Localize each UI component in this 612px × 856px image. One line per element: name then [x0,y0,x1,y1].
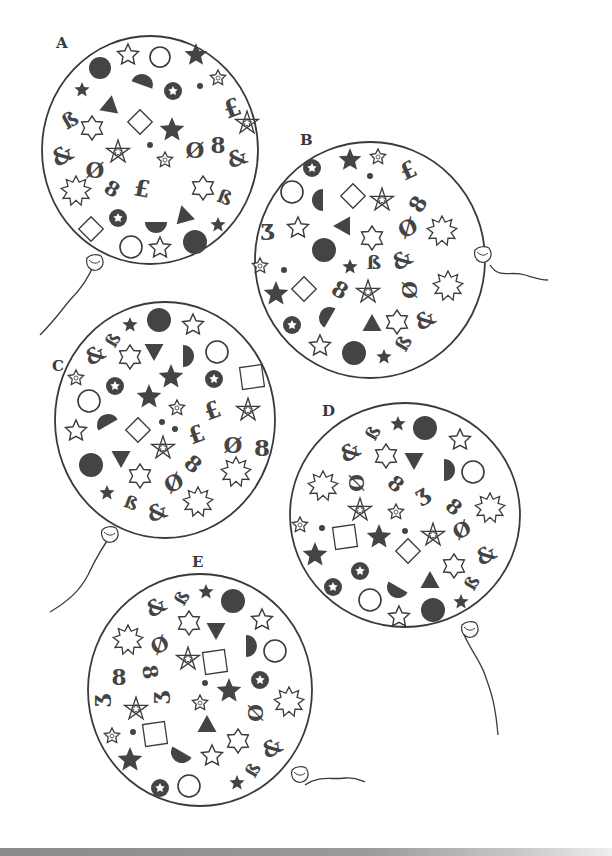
ezh-glyph-icon: Ʒ [150,690,175,704]
balloon-label-a: A [56,34,68,52]
figure-eight-icon: 8 [210,133,225,158]
dot-icon [319,525,325,531]
balloon-outline [88,574,312,806]
page-bottom-band [0,848,612,856]
ezh-glyph-icon: Ʒ [260,218,275,245]
balloon-string [50,534,112,612]
open-circle-icon [359,589,381,611]
open-square-icon [143,722,168,747]
balloon-label-c: C [52,357,64,375]
dot-icon [172,426,178,432]
open-circle-icon [120,236,142,258]
filled-circle-icon [79,453,103,477]
dot-icon [197,83,203,89]
figure-eight-icon: 8 [111,665,126,690]
svg-text:Ø: Ø [244,704,268,722]
svg-text:8: 8 [254,434,270,461]
balloon-outline [55,302,275,538]
filled-circle-icon [147,308,171,332]
svg-text:8: 8 [210,133,225,158]
balloon-b: £8ƷØß&8Ø&ß [252,142,548,378]
dot-icon [147,142,153,148]
balloon-string [462,630,498,735]
svg-text:ß: ß [367,251,381,273]
puzzle-page: £ß&Ø8Ø&8£ß£8ƷØß&8Ø&ßß&££Ø88Øß&ß&Ø8Ʒ8Ø&ß&… [0,0,612,856]
slashed-o-icon: Ø [224,433,243,458]
open-square-icon [240,365,265,390]
open-circle-icon [281,181,303,203]
svg-text:Ø: Ø [186,138,205,163]
balloon-e: &ßØ88ƷƷØ&ß [88,574,365,806]
ringed-star-icon [351,562,369,580]
filled-circle-icon [221,589,245,613]
balloon-label-e: E [192,553,203,571]
open-circle-icon [78,390,100,412]
svg-text:Ø: Ø [224,433,243,458]
slashed-o-icon: Ø [398,281,422,299]
figure-eight-icon: 8 [254,434,270,461]
open-square-icon [203,650,228,675]
slashed-o-icon: Ø [244,704,268,722]
svg-text:Ʒ: Ʒ [260,218,275,245]
ringed-star-icon [109,209,127,227]
balloon-d: ß&Ø8Ʒ8Ø&ß [290,403,520,735]
dot-icon [130,729,136,735]
svg-text:Ø: Ø [398,281,422,299]
open-circle-icon [150,47,170,67]
balloon-knot-icon [462,622,478,638]
balloon-knot-icon [102,527,118,543]
balloon-label-d: D [322,402,335,420]
filled-circle-icon [183,230,207,254]
balloon-string [305,778,365,785]
open-circle-icon [264,640,286,662]
svg-text:Ø: Ø [345,474,369,492]
open-circle-icon [206,341,228,363]
svg-text:8: 8 [111,665,126,690]
slashed-o-icon: Ø [186,138,205,163]
filled-circle-icon [312,238,336,262]
ringed-star-icon [303,159,321,177]
filled-circle-icon [89,57,111,79]
balloon-knot-icon [87,255,103,271]
balloon-illustration: £ß&Ø8Ø&8£ß£8ƷØß&8Ø&ßß&££Ø88Øß&ß&Ø8Ʒ8Ø&ß&… [0,0,612,856]
balloon-knot-icon [292,767,308,783]
balloon-a: £ß&Ø8Ø&8£ß [40,36,258,335]
dot-icon [202,680,208,686]
ringed-star-icon [251,671,269,689]
ringed-star-icon [106,377,124,395]
filled-circle-icon [413,416,437,440]
beta-glyph-icon: ß [367,251,381,273]
open-circle-icon [178,775,200,797]
filled-circle-icon [421,598,445,622]
dot-icon [159,419,165,425]
dot-icon [367,173,373,179]
balloon-string [40,262,95,335]
slashed-o-icon: Ø [345,474,369,492]
slashed-o-icon: Ø [86,158,105,183]
ezh-glyph-icon: Ʒ [91,693,116,707]
open-square-icon [333,525,358,550]
balloon-label-b: B [300,131,313,149]
ringed-star-icon [205,370,223,388]
ringed-star-icon [283,316,301,334]
balloon-string [490,265,548,280]
dot-icon [281,267,287,273]
svg-text:Ø: Ø [86,158,105,183]
open-circle-icon [462,461,484,483]
ringed-star-icon [324,578,342,596]
filled-circle-icon [342,341,366,365]
ringed-star-icon [164,82,182,100]
dot-icon [402,528,408,534]
svg-text:Ʒ: Ʒ [91,693,116,707]
balloon-knot-icon [475,247,491,263]
ringed-star-icon [151,779,169,797]
balloon-c: ß&££Ø88Øß& [50,302,275,612]
svg-text:Ʒ: Ʒ [150,690,175,704]
